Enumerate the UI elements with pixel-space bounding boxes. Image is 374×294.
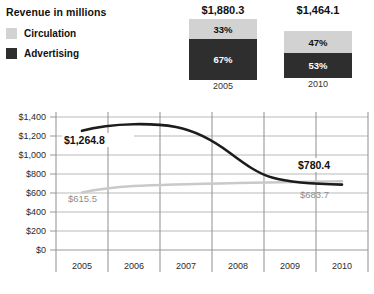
legend-item-advertising: Advertising	[6, 48, 176, 59]
x-tick-label: 2009	[280, 261, 300, 271]
bar-year-label-2010: 2010	[284, 79, 352, 90]
y-axis-ticks	[50, 117, 56, 250]
bar-segment-advertising-2005: 67%	[189, 39, 257, 80]
bar-stack-2010: 47% 53%	[284, 31, 352, 78]
y-tick-label: $1,200	[18, 131, 46, 141]
legend-title: Revenue in millions	[6, 6, 176, 19]
x-tick-label: 2010	[332, 261, 352, 271]
y-tick-label: $800	[26, 169, 46, 179]
bar-segment-advertising-2010: 53%	[284, 53, 352, 78]
data-label-advertising-end: $780.4	[298, 159, 330, 171]
y-tick-label: $1,400	[18, 112, 46, 122]
bar-total-2005: $1,880.3	[189, 4, 257, 17]
bar-segment-circulation-2010: 47%	[284, 31, 352, 53]
x-tick-label: 2007	[176, 261, 196, 271]
bar-segment-circulation-2005: 33%	[189, 19, 257, 39]
y-tick-label: $0	[36, 245, 46, 255]
advertising-swatch-icon	[6, 48, 17, 59]
y-tick-label: $400	[26, 207, 46, 217]
bar-year-label-2005: 2005	[189, 81, 257, 92]
y-tick-label: $200	[26, 226, 46, 236]
bar-total-2010: $1,464.1	[284, 4, 352, 17]
legend-label-advertising: Advertising	[24, 48, 79, 59]
chart-figure: Revenue in millions Circulation Advertis…	[0, 0, 374, 294]
stacked-bar-2010: $1,464.1 47% 53% 2010	[284, 4, 352, 90]
stacked-bar-2005: $1,880.3 33% 67% 2005	[189, 4, 257, 92]
legend-label-circulation: Circulation	[24, 28, 76, 39]
y-tick-label: $1,000	[18, 150, 46, 160]
data-label-advertising-start: $1,264.8	[64, 134, 105, 146]
legend: Revenue in millions Circulation Advertis…	[6, 6, 176, 59]
data-label-circulation-start: $615.5	[68, 193, 97, 204]
x-tick-label: 2006	[124, 261, 144, 271]
bar-stack-2005: 33% 67%	[189, 19, 257, 80]
x-tick-label: 2008	[228, 261, 248, 271]
legend-item-circulation: Circulation	[6, 28, 176, 39]
stacked-bar-group: $1,880.3 33% 67% 2005 $1,464.1 47% 53% 2…	[176, 4, 372, 100]
y-tick-label: $600	[26, 188, 46, 198]
data-label-circulation-end: $683.7	[300, 189, 329, 200]
line-chart: $1,400 $1,200 $1,000 $800 $600 $400 $200…	[0, 104, 374, 294]
circulation-swatch-icon	[6, 28, 17, 39]
x-tick-label: 2005	[72, 261, 92, 271]
y-axis-tick-labels: $1,400 $1,200 $1,000 $800 $600 $400 $200…	[18, 112, 46, 255]
